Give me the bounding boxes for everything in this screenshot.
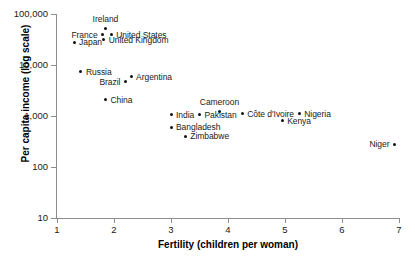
data-point xyxy=(73,41,76,44)
x-tick-mark xyxy=(57,218,58,223)
data-point xyxy=(104,27,107,30)
x-tick-label: 6 xyxy=(327,224,357,235)
data-point xyxy=(184,135,187,138)
data-point-label: Argentina xyxy=(136,71,172,81)
data-point-label: India xyxy=(176,109,194,119)
x-tick-label: 2 xyxy=(99,224,129,235)
data-point-label: Russia xyxy=(86,66,112,76)
x-tick-mark xyxy=(285,218,286,223)
x-tick-mark xyxy=(171,218,172,223)
data-point xyxy=(130,75,133,78)
y-axis-title: Per capita income (log scale) xyxy=(20,4,31,184)
x-tick-label: 1 xyxy=(42,224,72,235)
x-tick-label: 4 xyxy=(213,224,243,235)
scatter-chart: 100,00010,0001,00010010 1234567 Per capi… xyxy=(0,0,415,263)
data-point-label: Brazil xyxy=(99,76,120,86)
data-point xyxy=(393,143,396,146)
data-point-label: Cameroon xyxy=(200,97,239,107)
x-axis-title: Fertility (children per woman) xyxy=(56,239,400,250)
data-point-label: China xyxy=(110,94,132,104)
data-point-label: Ireland xyxy=(93,14,119,24)
data-point xyxy=(218,110,221,113)
x-tick-mark xyxy=(399,218,400,223)
data-point-label: United Kingdom xyxy=(109,34,169,44)
x-tick-label: 3 xyxy=(156,224,186,235)
x-tick-label: 5 xyxy=(270,224,300,235)
data-point-label: Japan xyxy=(79,37,102,47)
data-point-label: Niger xyxy=(369,139,389,149)
data-point-label: Kenya xyxy=(287,115,311,125)
x-tick-mark xyxy=(114,218,115,223)
data-point-label: Zimbabwe xyxy=(190,131,229,141)
y-tick-label: 10 xyxy=(0,212,48,223)
x-tick-mark xyxy=(342,218,343,223)
x-tick-mark xyxy=(228,218,229,223)
x-tick-label: 7 xyxy=(384,224,414,235)
data-point xyxy=(104,98,107,101)
data-point xyxy=(170,126,173,129)
